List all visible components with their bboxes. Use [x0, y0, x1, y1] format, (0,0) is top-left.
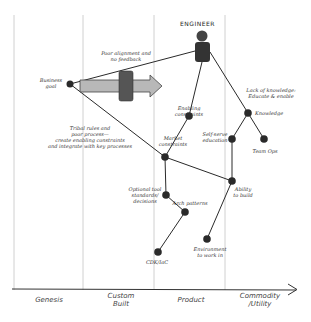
label-environment: Environment to work in	[192, 246, 228, 258]
stage-commodity-utility: Commodity /Utility	[232, 292, 288, 308]
label-business-goal: Business goal	[36, 77, 66, 89]
movement-arrow	[80, 71, 162, 101]
node-ability-to-build[interactable]	[228, 177, 236, 185]
label-optional-tool-standards: Optional tool standards/ decisions	[128, 186, 162, 204]
label-market-constraints: Market constraints	[158, 135, 188, 147]
stage-product: Product	[166, 296, 216, 304]
node-business-goal[interactable]	[67, 81, 74, 88]
link-market-optional	[165, 157, 166, 195]
node-optional-tool-standards[interactable]	[162, 191, 170, 199]
link-market-ability	[165, 157, 232, 181]
label-cdk-iac: CDK/IaC	[142, 259, 172, 265]
node-cdk-iac[interactable]	[154, 248, 162, 256]
node-arch-patterns[interactable]	[181, 208, 189, 216]
engineer-person-icon	[195, 31, 210, 63]
node-knowledge[interactable]	[244, 109, 252, 117]
evolution-axis	[12, 289, 296, 290]
link-engineer-knowledge	[210, 52, 248, 113]
annotation-tribal-rules: Tribal rules and poor process— create en…	[40, 125, 140, 149]
node-team-ops[interactable]	[260, 135, 268, 143]
annotation-poor-alignment: Poor alignment and no feedback	[96, 50, 156, 62]
label-self-serve-education: Self-serve education	[200, 131, 230, 143]
link-knowledge-teamops	[248, 113, 264, 139]
node-environment[interactable]	[203, 235, 211, 243]
label-enabling-constraints: Enabling constraints	[164, 105, 214, 117]
label-ability-to-build: Ability to build	[228, 186, 258, 198]
label-knowledge: Knowledge	[255, 110, 289, 116]
link-knowledge-selfserve	[232, 113, 248, 139]
annotation-lack-knowledge: Lack of knowledge: Educate & enable	[244, 87, 298, 99]
label-team-ops: Team Ops	[250, 148, 280, 154]
engineer-label: ENGINEER	[180, 20, 215, 27]
blocker-bar-icon	[119, 71, 133, 101]
wardley-map-canvas	[0, 0, 311, 322]
node-market-constraints[interactable]	[161, 153, 169, 161]
link-arch-cdk	[158, 212, 185, 252]
stage-custom-built: Custom Built	[96, 292, 146, 308]
stage-genesis: Genesis	[24, 296, 74, 304]
label-arch-patterns: Arch patterns	[170, 200, 210, 206]
